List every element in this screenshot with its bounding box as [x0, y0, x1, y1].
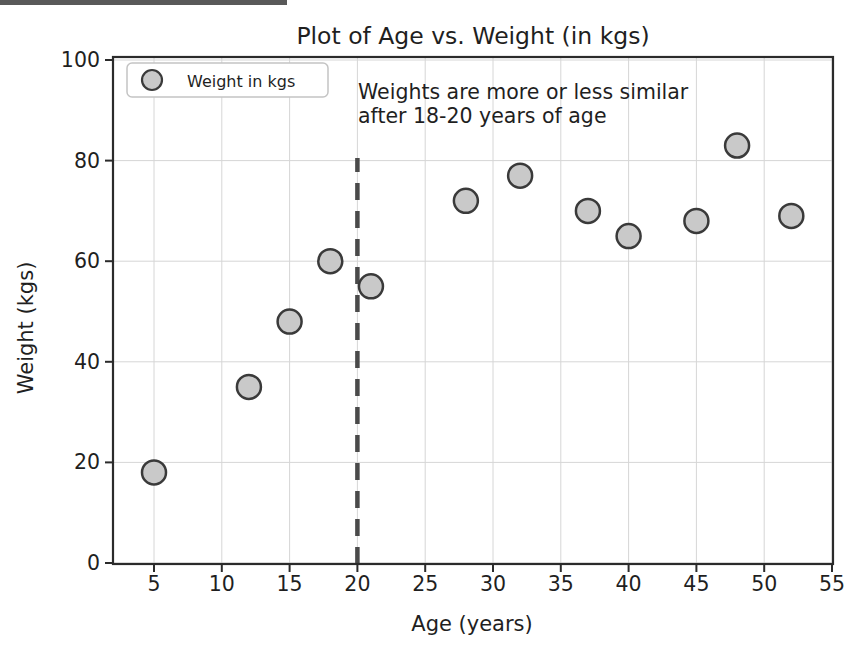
y-tick-label: 80: [74, 149, 100, 173]
y-tick-label: 100: [61, 48, 100, 72]
data-point: [237, 375, 261, 399]
y-tick-label: 0: [87, 551, 100, 575]
x-tick-label: 10: [209, 572, 235, 596]
data-point: [359, 274, 383, 298]
chart-title: Plot of Age vs. Weight (in kgs): [296, 22, 649, 50]
data-point: [684, 209, 708, 233]
y-tick-label: 20: [74, 450, 100, 474]
x-tick-label: 5: [147, 572, 160, 596]
x-tick-label: 30: [480, 572, 506, 596]
y-axis-label: Weight (kgs): [14, 262, 38, 395]
data-point: [779, 204, 803, 228]
legend-label: Weight in kgs: [187, 72, 295, 91]
data-point: [725, 134, 749, 158]
annotation: Weights are more or less similar after 1…: [358, 80, 689, 128]
data-point: [278, 310, 302, 334]
y-tick-label: 60: [74, 249, 100, 273]
x-tick-label: 25: [412, 572, 438, 596]
annotation-line-1: Weights are more or less similar: [358, 80, 689, 104]
x-tick-label: 50: [751, 572, 777, 596]
data-point: [142, 460, 166, 484]
data-point: [508, 164, 532, 188]
legend-marker-icon: [142, 70, 162, 90]
axes-frame: [113, 57, 833, 564]
scatter-chart: 510152025303540455055020406080100 Weight…: [0, 0, 862, 654]
scan-artifact: [0, 0, 287, 5]
data-point: [617, 224, 641, 248]
legend: Weight in kgs: [127, 63, 328, 97]
x-tick-label: 55: [819, 572, 845, 596]
x-tick-label: 20: [344, 572, 370, 596]
y-tick-label: 40: [74, 350, 100, 374]
x-tick-label: 45: [683, 572, 709, 596]
annotation-line-2: after 18-20 years of age: [358, 104, 607, 128]
data-points: [142, 134, 803, 485]
figure: 510152025303540455055020406080100 Weight…: [0, 0, 862, 654]
x-tick-label: 35: [548, 572, 574, 596]
axes-spines: [113, 57, 833, 564]
axis-ticks-and-labels: 510152025303540455055020406080100: [61, 48, 845, 596]
x-tick-label: 15: [277, 572, 303, 596]
data-point: [318, 249, 342, 273]
data-point: [576, 199, 600, 223]
x-axis-label: Age (years): [411, 612, 532, 636]
x-tick-label: 40: [616, 572, 642, 596]
data-point: [454, 189, 478, 213]
gridlines: [113, 57, 833, 564]
